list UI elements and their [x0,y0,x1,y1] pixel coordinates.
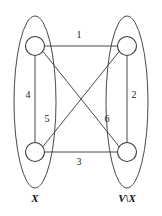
node-top-left [26,37,45,56]
set-label-v-minus-x: V\X [118,192,136,204]
edge-label-6: 6 [105,113,110,124]
edge-label-1: 1 [77,29,82,40]
node-bottom-right [118,143,137,162]
edge-label-5: 5 [45,113,50,124]
edge-label-4: 4 [26,89,31,100]
figure-root: 1 2 3 4 5 6 X V\X [0,0,162,216]
node-top-right [118,37,137,56]
bipartite-graph-diagram: 1 2 3 4 5 6 X V\X [0,0,162,216]
edge-label-2: 2 [132,89,137,100]
set-label-x: X [30,192,39,204]
edge-label-3: 3 [77,156,82,167]
node-bottom-left [26,143,45,162]
